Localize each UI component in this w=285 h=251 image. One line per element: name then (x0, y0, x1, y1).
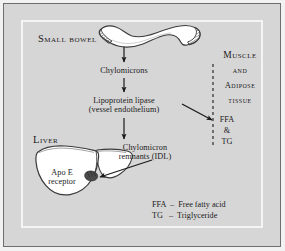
legend: FFA – Free fatty acid TG – Triglyceride (152, 199, 226, 221)
label-tissue: tissue (228, 95, 251, 105)
arrow-lpl-to-tissue (182, 104, 212, 120)
label-ffa: FFA (220, 115, 235, 125)
label-small-bowel: Small bowel (38, 33, 97, 45)
label-chylomicron-remnants-line2: remnants (IDL) (119, 152, 172, 162)
label-liver: Liver (33, 134, 58, 146)
figure-canvas: Small bowel Chylomicrons Lipoprotein lip… (0, 0, 285, 251)
legend-row-tg: TG – Triglyceride (152, 210, 226, 221)
label-adipose: Adipose (225, 80, 256, 90)
label-vessel-endothelium: (vessel endothelium) (89, 105, 159, 115)
label-muscle: Muscle (223, 50, 257, 61)
label-and: and (233, 65, 248, 75)
legend-row-ffa: FFA – Free fatty acid (152, 199, 226, 210)
label-chylomicrons: Chylomicrons (100, 66, 148, 76)
small-bowel-shape (99, 26, 200, 47)
label-tg: TG (221, 137, 232, 147)
label-apo-e-line2: receptor (48, 177, 76, 187)
label-ampersand: & (224, 126, 230, 136)
